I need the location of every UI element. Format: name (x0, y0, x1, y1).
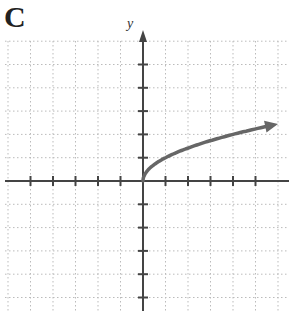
graph: y (0, 0, 289, 311)
y-axis-label: y (125, 16, 134, 31)
y-axis-arrow-icon (139, 30, 147, 42)
grid (5, 41, 289, 311)
curve-arrow-icon (264, 121, 278, 133)
